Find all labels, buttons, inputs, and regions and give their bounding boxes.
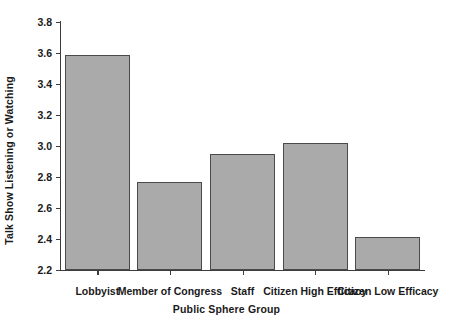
- y-axis-tick: [56, 177, 61, 178]
- bar: [210, 154, 275, 270]
- bar: [283, 143, 348, 270]
- bar: [355, 237, 420, 270]
- x-axis-tick: [170, 270, 171, 275]
- x-axis-tick: [243, 270, 244, 275]
- y-axis-tick: [56, 146, 61, 147]
- y-axis-tick-label: 3.4: [37, 78, 52, 90]
- x-axis-title: Public Sphere Group: [0, 303, 453, 315]
- x-axis-tick-label: Lobbyist: [75, 285, 119, 297]
- bar-chart: Talk Show Listening or Watching 2.22.42.…: [0, 0, 453, 321]
- y-axis-tick-label: 3.2: [37, 109, 52, 121]
- x-axis-tick-label: Citizen Low Efficacy: [337, 285, 439, 297]
- y-axis-tick: [56, 53, 61, 54]
- y-axis-tick-label: 2.6: [37, 202, 52, 214]
- y-axis-tick-label: 3.6: [37, 47, 52, 59]
- x-axis-tick: [97, 270, 98, 275]
- y-axis-tick-label: 2.4: [37, 233, 52, 245]
- y-axis-tick-label: 2.2: [37, 264, 52, 276]
- y-axis-tick: [56, 239, 61, 240]
- x-axis-tick-label: Member of Congress: [118, 285, 222, 297]
- y-axis-tick: [56, 208, 61, 209]
- y-axis-tick: [56, 22, 61, 23]
- y-axis-tick: [56, 270, 61, 271]
- bar: [137, 182, 202, 270]
- bar: [65, 55, 130, 270]
- y-axis-tick: [56, 84, 61, 85]
- y-axis-tick-label: 3.8: [37, 16, 52, 28]
- y-axis-tick: [56, 115, 61, 116]
- x-axis-tick: [388, 270, 389, 275]
- y-axis-tick-label: 3.0: [37, 140, 52, 152]
- x-axis-tick: [315, 270, 316, 275]
- x-axis-tick-label: Staff: [231, 285, 254, 297]
- y-axis-title: Talk Show Listening or Watching: [0, 0, 18, 321]
- y-axis-tick-label: 2.8: [37, 171, 52, 183]
- plot-area: 2.22.42.62.83.03.23.43.63.8: [61, 22, 424, 270]
